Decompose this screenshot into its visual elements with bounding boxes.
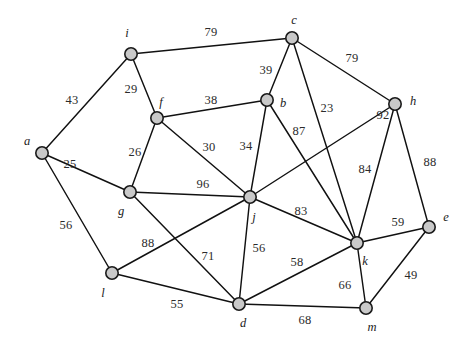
node-label-g: g	[118, 205, 124, 218]
graph-nodes-layer	[36, 32, 435, 314]
graph-node-l[interactable]	[106, 267, 118, 279]
node-label-f: f	[159, 96, 162, 109]
edge-weight-j-d: 56	[253, 242, 266, 255]
edge-weight-a-l: 56	[60, 219, 73, 232]
edge-weight-h-j: 92	[377, 109, 390, 122]
graph-node-b[interactable]	[261, 94, 273, 106]
graph-node-e[interactable]	[423, 221, 435, 233]
graph-node-d[interactable]	[233, 298, 245, 310]
graph-edge-k-m	[357, 243, 366, 308]
edge-weight-d-k: 58	[291, 256, 304, 269]
edge-weight-b-k: 87	[293, 125, 306, 138]
graph-edge-a-g	[42, 153, 130, 192]
node-label-d: d	[240, 317, 246, 330]
edge-weight-j-k: 83	[295, 205, 308, 218]
edge-weight-b-j: 34	[240, 140, 253, 153]
graph-edge-b-j	[250, 100, 267, 197]
edge-weight-l-j: 88	[142, 237, 155, 250]
graph-node-c[interactable]	[286, 32, 298, 44]
graph-edge-i-c	[131, 38, 292, 54]
node-label-a: a	[24, 135, 30, 148]
edge-weight-h-e: 88	[424, 156, 437, 169]
node-label-i: i	[125, 27, 128, 40]
graph-edge-a-l	[42, 153, 112, 273]
graph-node-g[interactable]	[124, 186, 136, 198]
graph-edge-g-j	[130, 192, 250, 197]
graph-node-h[interactable]	[389, 98, 401, 110]
edge-weight-c-h: 79	[346, 52, 359, 65]
graph-edge-j-d	[239, 197, 250, 304]
graph-edge-c-h	[292, 38, 395, 104]
node-label-k: k	[362, 255, 368, 268]
edge-weight-a-g: 25	[64, 158, 77, 171]
graph-node-a[interactable]	[36, 147, 48, 159]
graph-node-f[interactable]	[151, 112, 163, 124]
graph-edge-a-i	[42, 54, 131, 153]
node-label-b: b	[280, 97, 286, 110]
edge-weight-c-k: 23	[321, 102, 334, 115]
graph-edge-b-k	[267, 100, 357, 243]
graph-canvas	[0, 0, 469, 345]
edge-weight-i-f: 29	[125, 83, 138, 96]
edge-weight-c-b: 39	[260, 64, 273, 77]
edge-weight-f-j: 30	[203, 141, 216, 154]
edge-weight-l-d: 55	[171, 298, 184, 311]
edge-weight-d-m: 68	[299, 314, 312, 327]
graph-edge-d-m	[239, 304, 366, 308]
edge-weight-g-j: 96	[197, 178, 210, 191]
graph-node-m[interactable]	[360, 302, 372, 314]
edge-weight-i-c: 79	[205, 26, 218, 39]
edge-weight-m-e: 49	[405, 269, 418, 282]
node-label-j: j	[252, 211, 255, 224]
graph-node-i[interactable]	[125, 48, 137, 60]
node-label-m: m	[367, 321, 376, 334]
edge-weight-f-g: 26	[129, 146, 142, 159]
node-label-e: e	[443, 211, 449, 224]
edge-weight-f-b: 38	[205, 94, 218, 107]
edge-weight-h-k: 84	[359, 163, 372, 176]
weighted-graph-diagram: 4325562979382630397923348792848896718855…	[0, 0, 469, 345]
edge-weight-k-m: 66	[339, 279, 352, 292]
node-label-l: l	[101, 287, 104, 300]
edge-weight-k-e: 59	[392, 216, 405, 229]
node-label-h: h	[410, 95, 416, 108]
graph-node-k[interactable]	[351, 237, 363, 249]
graph-node-j[interactable]	[244, 191, 256, 203]
node-label-c: c	[291, 14, 297, 27]
edge-weight-g-d: 71	[202, 250, 215, 263]
edge-weight-a-i: 43	[66, 94, 79, 107]
graph-edge-l-j	[112, 197, 250, 273]
